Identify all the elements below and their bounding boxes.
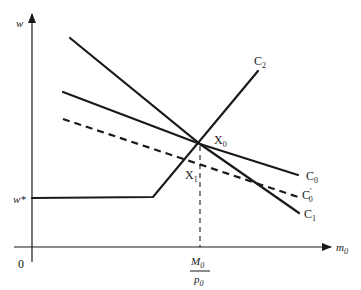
- x0-label: X0: [214, 133, 227, 149]
- curve-c2: [32, 71, 258, 198]
- m0-numerator: M0: [190, 255, 204, 270]
- x-axis-label: m0: [336, 241, 348, 256]
- diagram-canvas: w w* 0 m0 M0 p0 C2 C0 C′0 C1 X0 X1: [0, 0, 361, 290]
- x1-label: X1: [185, 168, 198, 184]
- c0-label: C0: [306, 169, 318, 185]
- c0-prime-label: C′0: [302, 187, 313, 204]
- w-star-label: w*: [13, 193, 26, 205]
- c1-label: C1: [304, 207, 316, 223]
- origin-label: 0: [18, 257, 24, 271]
- p0-denominator: p0: [193, 273, 204, 288]
- y-axis-label: w: [16, 17, 24, 29]
- c2-label: C2: [254, 54, 266, 70]
- curve-c0-prime: [63, 119, 298, 197]
